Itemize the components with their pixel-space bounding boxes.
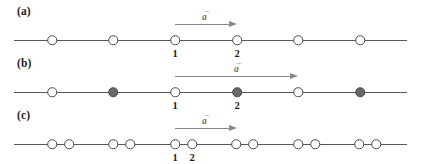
lattice-node bbox=[108, 87, 118, 97]
vector-arrow-shaft bbox=[175, 128, 230, 129]
vector-arrow-head bbox=[229, 125, 237, 131]
vector-arrow-shaft bbox=[175, 76, 291, 77]
lattice-node bbox=[310, 139, 320, 149]
vector-a-label: →a bbox=[202, 8, 210, 22]
lattice-node bbox=[108, 35, 118, 45]
lattice-node bbox=[354, 139, 364, 149]
lattice-node bbox=[371, 139, 381, 149]
lattice-node bbox=[187, 139, 197, 149]
panel-c-label: (c) bbox=[17, 109, 30, 122]
vector-arrow-shaft bbox=[175, 24, 230, 25]
vector-a-label: →a bbox=[202, 112, 210, 126]
lattice-node bbox=[47, 35, 57, 45]
panel-a-label: (a) bbox=[17, 5, 31, 18]
panel-c: (c) 12 →a bbox=[0, 104, 421, 164]
lattice-node bbox=[125, 139, 135, 149]
lattice-node bbox=[355, 35, 365, 45]
vector-label-text: a bbox=[234, 64, 239, 74]
lattice-node bbox=[170, 35, 180, 45]
lattice-node bbox=[355, 87, 365, 97]
lattice-node bbox=[293, 139, 303, 149]
lattice-node bbox=[47, 87, 57, 97]
lattice-node bbox=[232, 87, 242, 97]
lattice-node bbox=[232, 35, 242, 45]
vector-a-label: →a bbox=[234, 60, 242, 74]
lattice-node bbox=[170, 87, 180, 97]
physics-lattice-figure: (a) 12 →a (b) 12 →a (c) 12 →a bbox=[0, 0, 421, 164]
panel-a: (a) 12 →a bbox=[0, 0, 421, 55]
lattice-node bbox=[108, 139, 118, 149]
vector-arrow-head bbox=[229, 21, 237, 27]
lattice-node bbox=[231, 139, 241, 149]
vector-label-text: a bbox=[202, 12, 207, 22]
panel-b-axis-line bbox=[14, 92, 407, 93]
panel-b: (b) 12 →a bbox=[0, 52, 421, 107]
lattice-node bbox=[248, 139, 258, 149]
vector-label-text: a bbox=[202, 116, 207, 126]
lattice-node bbox=[47, 139, 57, 149]
vector-arrow-head bbox=[290, 73, 298, 79]
panel-a-axis-line bbox=[14, 40, 407, 41]
lattice-node bbox=[293, 35, 303, 45]
lattice-node bbox=[64, 139, 74, 149]
panel-b-label: (b) bbox=[17, 57, 31, 70]
lattice-node bbox=[293, 87, 303, 97]
lattice-node bbox=[170, 139, 180, 149]
lattice-node-label: 1 bbox=[172, 152, 177, 163]
lattice-node-label: 2 bbox=[189, 152, 194, 163]
